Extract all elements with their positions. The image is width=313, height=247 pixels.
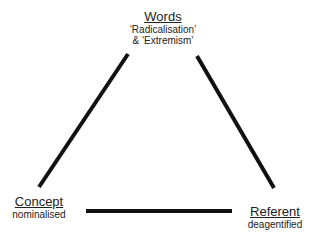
concept-subtitle: nominalised <box>6 209 72 220</box>
concept-title: Concept <box>6 195 72 209</box>
words-title: Words <box>108 10 218 24</box>
words-line1: ‘Radicalisation’ <box>108 24 218 35</box>
node-words: Words ‘Radicalisation’ & ‘Extremism’ <box>108 10 218 46</box>
words-line2: & ‘Extremism’ <box>108 35 218 46</box>
referent-subtitle: deagentified <box>240 219 310 230</box>
edge-words-referent <box>197 56 274 188</box>
node-concept: Concept nominalised <box>6 195 72 220</box>
node-referent: Referent deagentified <box>240 205 310 230</box>
edge-words-concept <box>39 54 128 187</box>
referent-title: Referent <box>240 205 310 219</box>
